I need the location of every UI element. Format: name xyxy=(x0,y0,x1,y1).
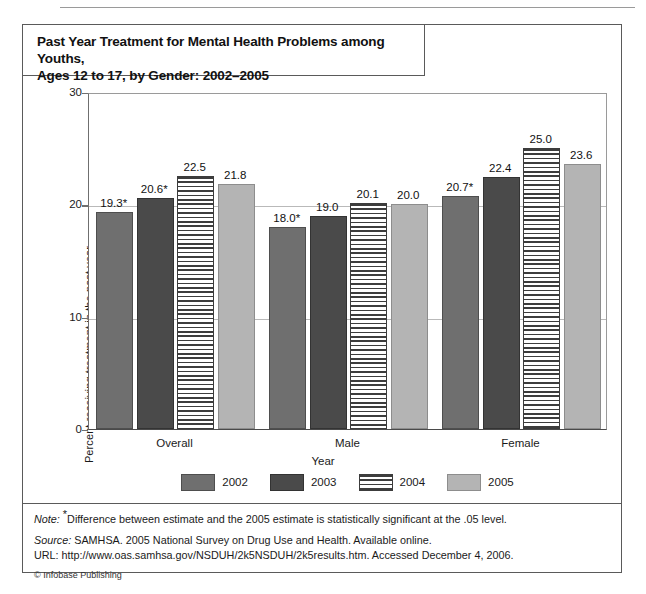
bar-value-label: 23.6 xyxy=(555,149,608,161)
legend-item-2005[interactable]: 2005 xyxy=(447,474,514,491)
footnote-source: Source: SAMHSA. 2005 National Survey on … xyxy=(34,533,614,548)
legend-label: 2002 xyxy=(222,476,248,488)
bar-value-label: 22.4 xyxy=(474,162,527,174)
legend-item-2004[interactable]: 2004 xyxy=(359,474,426,491)
y-axis-tick-label: 10 xyxy=(48,311,82,323)
footnote-note-text: Difference between estimate and the 2005… xyxy=(67,513,507,525)
bar-overall-2004 xyxy=(177,176,214,429)
y-axis-tick-label: 30 xyxy=(48,86,82,98)
footnote-url: URL: http://www.oas.samhsa.gov/NSDUH/2k5… xyxy=(34,548,614,563)
bar-male-2003 xyxy=(310,216,347,429)
bar-overall-2002 xyxy=(96,212,133,429)
bar-overall-2005 xyxy=(218,184,255,429)
bar-value-label: 20.6* xyxy=(128,183,181,195)
bar-male-2002 xyxy=(269,227,306,429)
bar-value-label: 25.0 xyxy=(514,133,567,145)
legend-label: 2005 xyxy=(488,476,514,488)
figure-footer: Note: *Difference between estimate and t… xyxy=(34,512,614,580)
bar-female-2004 xyxy=(523,148,560,429)
bar-male-2005 xyxy=(391,204,428,429)
y-axis-tick-label: 0 xyxy=(48,423,82,435)
footer-divider xyxy=(22,503,622,504)
bar-value-label: 20.0 xyxy=(382,189,435,201)
legend-swatch-2002 xyxy=(181,474,215,491)
bar-male-2004 xyxy=(350,203,387,429)
legend-label: 2004 xyxy=(400,476,426,488)
bar-value-label: 21.8 xyxy=(209,169,262,181)
bar-female-2003 xyxy=(483,177,520,429)
legend-item-2002[interactable]: 2002 xyxy=(181,474,248,491)
x-axis-label-female: Female xyxy=(434,437,607,449)
legend-swatch-2003 xyxy=(270,474,304,491)
footnote-note: Note: *Difference between estimate and t… xyxy=(34,512,614,527)
footnote-source-text: SAMHSA. 2005 National Survey on Drug Use… xyxy=(74,534,432,546)
legend-label: 2003 xyxy=(311,476,337,488)
y-axis-tick-mark xyxy=(82,430,88,431)
x-axis-title: Year xyxy=(0,455,646,467)
y-axis-tick-label: 20 xyxy=(48,198,82,210)
x-axis-label-male: Male xyxy=(261,437,434,449)
legend-swatch-2005 xyxy=(447,474,481,491)
bar-value-label: 19.0 xyxy=(301,201,354,213)
chart-legend: 2002200320042005 xyxy=(88,470,607,494)
bar-value-label: 20.7* xyxy=(433,181,486,193)
footnote-note-label: Note: xyxy=(34,513,60,525)
bar-female-2002 xyxy=(442,196,479,429)
bar-overall-2003 xyxy=(137,198,174,429)
footnote-source-label: Source: xyxy=(34,534,71,546)
x-axis-label-overall: Overall xyxy=(88,437,261,449)
chart-canvas: Percent receiving treatment in the past … xyxy=(0,0,646,594)
legend-swatch-2004 xyxy=(359,474,393,491)
bar-value-label: 19.3* xyxy=(87,197,140,209)
copyright-line: © Infobase Publishing xyxy=(34,570,614,580)
bar-value-label: 18.0* xyxy=(260,212,313,224)
bar-female-2005 xyxy=(564,164,601,429)
legend-item-2003[interactable]: 2003 xyxy=(270,474,337,491)
